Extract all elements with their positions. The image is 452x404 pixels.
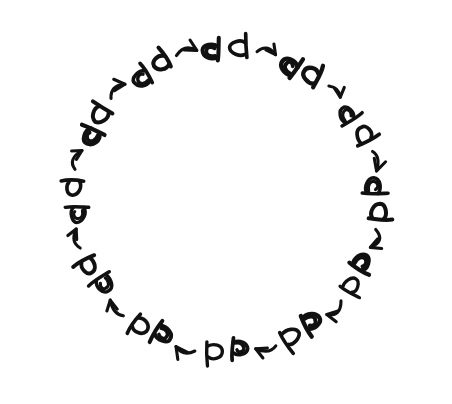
plain-d-glyph-5: [340, 274, 367, 298]
spiral-eye-glyph-10: [65, 207, 89, 223]
plain-d-glyph-2: [299, 59, 323, 87]
plain-d-glyph-12: [147, 47, 172, 74]
arrows-layer: [68, 40, 386, 359]
flow-arrow-7: [176, 347, 195, 360]
spiral-eye-glyph-9: [88, 271, 118, 298]
glyph-pair-2: [277, 50, 324, 87]
arrow-head-12: [184, 40, 196, 50]
spiral-eye-glyph-5: [349, 250, 377, 276]
flow-arrow-11: [111, 79, 125, 98]
cycle-diagram: [0, 0, 452, 404]
spiral-eye-glyph-7: [232, 338, 248, 361]
spiral-eye-glyph-1: [202, 38, 218, 61]
glyph-pair-3: [334, 100, 380, 146]
plain-d-glyph-8: [126, 314, 152, 342]
arrow-head-9: [68, 229, 77, 240]
flow-arrow-8: [107, 300, 123, 316]
glyph-pair-4: [362, 177, 393, 220]
arrow-head-3: [374, 158, 385, 171]
spiral-eye-glyph-3: [334, 100, 363, 126]
flow-arrow-12: [176, 40, 196, 56]
spiral-eye-glyph-6: [300, 308, 326, 336]
glyph-pair-5: [340, 250, 377, 299]
flow-arrow-6: [256, 346, 276, 358]
plain-d-glyph-3: [351, 121, 380, 146]
flow-arrow-9: [68, 229, 80, 248]
spiral-eye-glyph-2: [277, 50, 303, 78]
glyph-pair-1: [202, 34, 247, 61]
glyph-pair-6: [279, 308, 326, 353]
flow-arrow-10: [72, 151, 82, 170]
flow-arrow-5: [327, 301, 341, 322]
plain-d-glyph-9: [73, 254, 102, 279]
glyph-pair-10: [61, 180, 89, 223]
arrow-head-6: [256, 348, 268, 358]
glyph-pair-11: [75, 101, 112, 148]
plain-d-glyph-7: [206, 341, 223, 366]
diagram-canvas: [0, 0, 452, 404]
glyph-pair-12: [127, 47, 172, 91]
plain-d-glyph-11: [84, 101, 112, 127]
flow-arrow-4: [370, 229, 381, 248]
glyph-pairs-layer: [61, 34, 393, 366]
plain-d-glyph-1: [229, 34, 248, 59]
flow-arrow-2: [329, 86, 344, 97]
plain-d-glyph-6: [279, 324, 307, 354]
spiral-eye-glyph-11: [75, 124, 104, 149]
spiral-eye-glyph-12: [127, 63, 153, 91]
plain-d-glyph-4: [369, 203, 393, 220]
flow-arrow-1: [257, 44, 275, 55]
glyph-pair-7: [206, 338, 248, 366]
arrow-head-5: [327, 311, 338, 322]
glyph-pair-9: [73, 254, 118, 298]
glyph-pair-8: [126, 314, 176, 350]
flow-arrow-3: [373, 151, 386, 170]
spiral-eye-glyph-4: [362, 177, 388, 194]
plain-d-glyph-10: [61, 180, 84, 196]
spiral-eye-glyph-8: [149, 320, 176, 350]
